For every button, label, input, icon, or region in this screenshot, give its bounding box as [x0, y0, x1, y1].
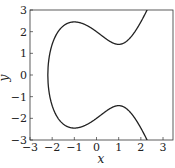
x-axis-label: x	[98, 152, 105, 166]
x-tick-label: 3	[160, 141, 167, 154]
curve-line	[48, 7, 149, 144]
plot-frame	[30, 10, 173, 140]
y-tick-label: 2	[20, 26, 27, 39]
x-tick-label: −1	[66, 141, 82, 154]
y-tick-label: 3	[20, 4, 27, 17]
y-axis-label: y	[0, 74, 11, 82]
x-tick-label: 2	[137, 141, 144, 154]
chart: −3−2−101233210−1−2−3 x y	[0, 0, 175, 168]
y-tick-label: 1	[20, 47, 27, 60]
plot-area	[30, 7, 173, 144]
y-tick-label: −2	[11, 112, 27, 125]
y-tick-label: −3	[11, 134, 27, 147]
x-tick-label: 1	[115, 141, 122, 154]
x-tick-label: −2	[44, 141, 60, 154]
y-tick-label: 0	[20, 69, 27, 82]
y-tick-label: −1	[11, 91, 27, 104]
